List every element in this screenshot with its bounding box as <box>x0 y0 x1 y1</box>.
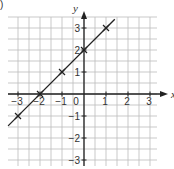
corner-label: ) <box>0 0 3 10</box>
x-tick-label: −1 <box>55 96 67 107</box>
axes: xy <box>8 2 174 166</box>
coordinate-plot: ) xy −3−2−10123−3−2−1123 <box>0 0 174 169</box>
x-tick-label: 1 <box>102 96 108 107</box>
x-axis-arrow-icon <box>160 91 168 97</box>
y-tick-label: 1 <box>74 67 80 78</box>
grid <box>8 17 157 166</box>
y-tick-label: −3 <box>69 155 81 166</box>
y-tick-label: −2 <box>69 133 81 144</box>
x-axis-label: x <box>170 88 174 100</box>
y-axis-arrow-icon <box>81 11 87 19</box>
x-tick-label: 2 <box>124 96 130 107</box>
y-tick-label: −1 <box>69 111 81 122</box>
x-tick-label: −2 <box>33 96 45 107</box>
x-tick-label: −3 <box>11 96 23 107</box>
x-tick-label: 0 <box>73 96 79 107</box>
x-tick-label: 3 <box>146 96 152 107</box>
y-tick-label: 3 <box>74 23 80 34</box>
data-series <box>8 19 115 126</box>
y-axis-label: y <box>72 2 78 14</box>
